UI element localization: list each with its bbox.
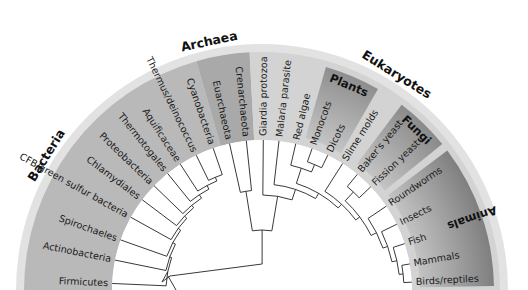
leaf-label: Giardia protozoa — [257, 56, 269, 136]
leaf-label: Firmicutes — [59, 275, 109, 288]
phylogenetic-tree: FirmicutesActinobacteriaSpirochaelesCFB/… — [0, 0, 528, 290]
